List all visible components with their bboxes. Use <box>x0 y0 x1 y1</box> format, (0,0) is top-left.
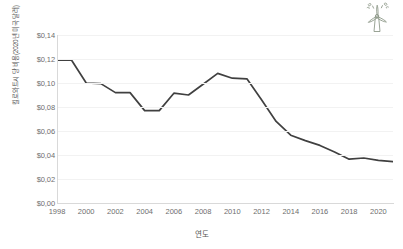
gridline-0_04 <box>57 155 393 156</box>
gridline-0_14 <box>57 35 393 36</box>
x-tick-label: 2020 <box>358 207 398 216</box>
plot-area <box>57 35 393 203</box>
gridline-0_08 <box>57 107 393 108</box>
gridline-0_10 <box>57 83 393 84</box>
gridline-0_06 <box>57 131 393 132</box>
x-axis-line <box>57 203 394 204</box>
wind-energy-cost-line-chart: $0,14 $0,12 $0,10 $0,08 $0,06 $0,04 $0,0… <box>0 0 403 249</box>
data-series-line <box>57 35 393 203</box>
wind-turbine-icon <box>355 0 399 35</box>
y-tick-label: $0,02 <box>9 175 55 184</box>
x-axis-title: 연도 <box>0 228 403 239</box>
y-axis-line <box>57 35 58 204</box>
gridline-0_02 <box>57 179 393 180</box>
y-tick-label: $0,04 <box>9 151 55 160</box>
gridline-0_12 <box>57 59 393 60</box>
y-axis-title: 킬로와트시 당 비용(2020년 미국 달러) <box>10 0 20 140</box>
